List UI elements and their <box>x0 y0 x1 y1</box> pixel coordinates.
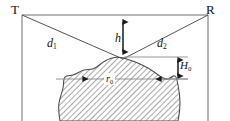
clearance-height-label: h <box>115 32 121 44</box>
path-d2-subscript: 2 <box>163 42 167 51</box>
diffraction-geometry-figure: T R d1 d2 h H0 r0 <box>0 0 230 121</box>
path-d2-label: d2 <box>157 37 167 49</box>
path-d1-subscript: 1 <box>53 42 57 51</box>
obstacle-height-symbol: H <box>180 59 188 71</box>
figure-canvas <box>0 0 230 121</box>
transmitter-label: T <box>11 3 19 16</box>
path-d1-label: d1 <box>47 37 57 49</box>
obstacle-hill <box>59 57 180 121</box>
obstacle-height-subscript: 0 <box>188 65 191 72</box>
obstacle-radius-label: r0 <box>104 73 115 85</box>
obstacle-height-label: H0 <box>180 60 191 71</box>
obstacle-radius-subscript: 0 <box>110 78 113 85</box>
receiver-label: R <box>206 3 215 16</box>
path-d1-line <box>22 15 123 59</box>
